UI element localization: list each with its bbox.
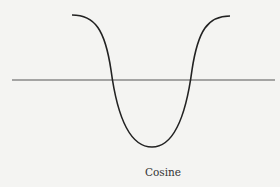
cosine-curve [72,15,230,147]
diagram-caption: Cosine [0,166,280,178]
cosine-diagram [0,0,280,187]
